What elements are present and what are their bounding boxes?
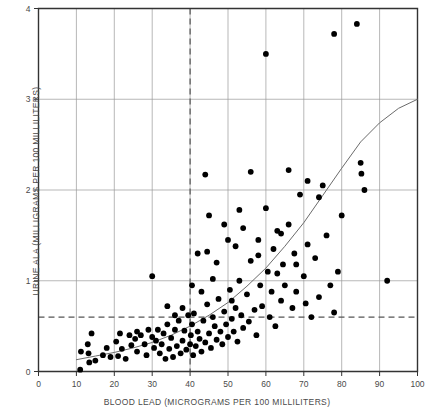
data-point — [199, 349, 205, 355]
data-point — [221, 222, 227, 228]
x-tick-label: 50 — [223, 379, 233, 389]
data-point — [132, 336, 138, 342]
data-point — [221, 309, 227, 315]
data-point — [157, 350, 163, 356]
data-point — [339, 213, 345, 219]
data-point — [236, 207, 242, 213]
data-point — [274, 271, 280, 277]
data-point — [233, 305, 239, 311]
data-point — [153, 338, 159, 344]
data-point — [252, 307, 258, 313]
tick-labels: 010203040506070809010001234 — [26, 4, 425, 389]
data-point — [127, 332, 133, 338]
y-axis-title: URINE ALA (MILLIGRAMS PER 100 MILLILITER… — [31, 71, 41, 311]
x-tick-label: 20 — [110, 379, 120, 389]
data-point — [172, 327, 178, 333]
data-point — [151, 345, 157, 351]
data-point — [100, 352, 106, 358]
data-point — [119, 346, 125, 352]
data-point — [331, 310, 337, 316]
data-point — [324, 232, 330, 238]
data-point — [86, 360, 92, 366]
data-point — [320, 183, 326, 189]
data-point — [86, 350, 92, 356]
data-point — [293, 289, 299, 295]
data-point — [163, 356, 169, 362]
x-tick-label: 0 — [36, 379, 41, 389]
data-point — [308, 314, 314, 320]
data-point — [204, 249, 210, 255]
plot-canvas: 010203040506070809010001234 — [0, 0, 434, 414]
data-point — [195, 329, 201, 335]
data-point — [291, 251, 297, 257]
data-point — [225, 334, 231, 340]
data-point — [144, 352, 150, 358]
data-point — [210, 276, 216, 282]
data-point — [354, 21, 360, 27]
data-point — [187, 341, 193, 347]
data-point — [195, 251, 201, 257]
data-point — [240, 225, 246, 231]
data-point — [229, 316, 235, 322]
data-point — [208, 345, 214, 351]
x-tick-label: 80 — [337, 379, 347, 389]
data-point — [229, 298, 235, 304]
y-tick-label: 0 — [26, 367, 31, 377]
data-point — [231, 329, 237, 335]
data-point — [191, 311, 197, 317]
scatter-plot-figure: 010203040506070809010001234 BLOOD LEAD (… — [0, 0, 434, 414]
x-tick-label: 60 — [261, 379, 271, 389]
data-point — [178, 350, 184, 356]
data-point — [176, 318, 182, 324]
data-point — [206, 330, 212, 336]
x-axis-title: BLOOD LEAD (MICROGRAMS PER 100 MILLILITE… — [0, 397, 434, 407]
data-point — [189, 321, 195, 327]
x-tick-label: 70 — [299, 379, 309, 389]
data-point — [282, 282, 288, 288]
data-point — [235, 339, 241, 345]
data-point — [297, 192, 303, 198]
data-point — [303, 301, 309, 307]
data-point — [290, 305, 296, 311]
data-point — [185, 312, 191, 318]
data-point — [223, 321, 229, 327]
data-point — [188, 332, 194, 338]
data-point — [78, 349, 84, 355]
data-point — [180, 305, 186, 311]
data-point — [202, 172, 208, 178]
data-point — [233, 243, 239, 249]
data-point — [227, 287, 233, 293]
data-point — [216, 296, 222, 302]
data-point — [305, 242, 311, 248]
data-point — [248, 258, 254, 264]
data-point — [316, 194, 322, 200]
data-point — [255, 252, 261, 258]
data-point — [286, 222, 292, 228]
data-point — [271, 246, 277, 252]
data-point — [77, 367, 83, 373]
data-point — [170, 354, 176, 360]
data-point — [193, 343, 199, 349]
data-point — [166, 346, 172, 352]
y-tick-label: 4 — [26, 4, 31, 14]
data-points — [77, 21, 390, 373]
data-point — [183, 347, 189, 353]
data-point — [331, 31, 337, 37]
data-point — [180, 338, 186, 344]
data-point — [254, 332, 260, 338]
data-point — [240, 325, 246, 331]
data-point — [301, 273, 307, 279]
x-tick-label: 10 — [72, 379, 82, 389]
data-point — [263, 205, 269, 211]
data-point — [219, 341, 225, 347]
data-point — [255, 237, 261, 243]
data-point — [92, 358, 98, 364]
data-point — [263, 51, 269, 57]
data-point — [123, 356, 129, 362]
data-point — [197, 336, 203, 342]
data-point — [200, 318, 206, 324]
data-point — [164, 321, 170, 327]
data-point — [155, 327, 161, 333]
data-point — [142, 341, 148, 347]
data-point — [265, 269, 271, 275]
